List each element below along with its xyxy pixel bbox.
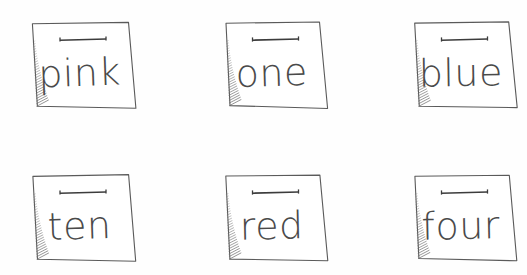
word-card[interactable]: four xyxy=(415,175,517,260)
cards-layer: pinkonebluetenredfour xyxy=(32,22,517,261)
card-word: red xyxy=(239,203,304,249)
word-card[interactable]: one xyxy=(226,22,328,109)
card-word: one xyxy=(235,50,309,96)
card-word: blue xyxy=(418,50,503,95)
card-word: ten xyxy=(47,203,112,249)
word-card[interactable]: ten xyxy=(33,175,136,262)
card-word: four xyxy=(421,203,500,249)
word-cards-sketch: pinkonebluetenredfour xyxy=(0,0,527,275)
card-word: pink xyxy=(37,50,121,97)
word-card[interactable]: pink xyxy=(32,22,135,108)
word-card[interactable]: blue xyxy=(415,22,518,108)
word-card[interactable]: red xyxy=(226,175,328,261)
